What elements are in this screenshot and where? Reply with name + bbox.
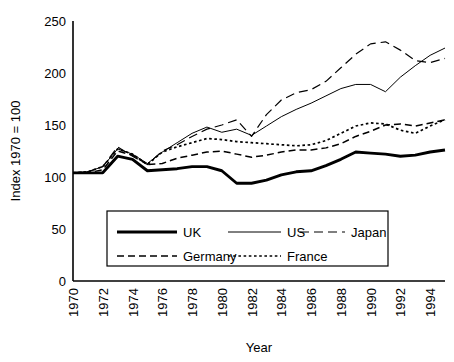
x-axis-title: Year xyxy=(246,340,273,355)
y-tick-label: 150 xyxy=(44,118,66,133)
legend: UKUSJapanGermanyFrance xyxy=(107,211,388,266)
x-tick-label: 1986 xyxy=(304,288,319,317)
x-tick-label: 1984 xyxy=(274,288,289,317)
x-tick-label: 1978 xyxy=(185,288,200,317)
legend-label-uk: UK xyxy=(183,225,201,240)
x-tick-label: 1972 xyxy=(96,288,111,317)
x-tick-label: 1994 xyxy=(423,288,438,317)
y-tick-label: 100 xyxy=(44,170,66,185)
legend-border xyxy=(107,211,388,266)
series-line-germany xyxy=(73,120,445,173)
x-tick-label: 1976 xyxy=(155,288,170,317)
series-line-france xyxy=(73,120,445,173)
x-tick-label: 1988 xyxy=(334,288,349,317)
y-axis-title: Index 1970 = 100 xyxy=(8,101,23,202)
y-tick-label: 250 xyxy=(44,14,66,29)
legend-label-japan: Japan xyxy=(351,225,386,240)
x-tick-label: 1980 xyxy=(215,288,230,317)
series-line-uk xyxy=(73,150,445,183)
x-tick-label: 1982 xyxy=(245,288,260,317)
line-chart: 050100150200250 197019721974197619781980… xyxy=(0,0,454,362)
y-tick-label: 50 xyxy=(52,222,66,237)
y-axis-tick-labels: 050100150200250 xyxy=(44,14,66,289)
y-tick-label: 200 xyxy=(44,66,66,81)
x-tick-label: 1974 xyxy=(126,288,141,317)
data-series-group xyxy=(73,42,445,183)
x-tick-label: 1970 xyxy=(66,288,81,317)
x-tick-label: 1990 xyxy=(364,288,379,317)
chart-canvas: 050100150200250 197019721974197619781980… xyxy=(0,0,454,362)
x-axis-tick-labels: 1970197219741976197819801982198419861988… xyxy=(66,288,438,317)
y-tick-label: 0 xyxy=(59,274,66,289)
legend-label-france: France xyxy=(287,249,327,264)
x-tick-label: 1992 xyxy=(393,288,408,317)
